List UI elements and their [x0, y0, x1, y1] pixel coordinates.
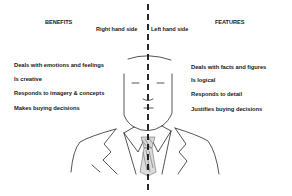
shoulder-right: [175, 128, 219, 174]
collar-right: [152, 131, 171, 152]
neck-right: [162, 126, 171, 131]
head-right-side: [162, 74, 172, 126]
businessman-figure: [0, 0, 292, 196]
head-outline: [128, 56, 171, 60]
benefit-item: Deals with emotions and feelings: [14, 62, 104, 69]
jacket-right-front: [162, 131, 171, 174]
benefit-item: Makes buying decisions: [14, 105, 80, 112]
lapel-left-inner: [92, 165, 100, 172]
lapel-right: [175, 128, 187, 174]
benefits-heading: BENEFITS: [45, 19, 72, 26]
feature-item: Deals with facts and figures: [191, 64, 266, 71]
right-hand-side-label: Right hand side: [96, 26, 137, 33]
neck-left: [124, 127, 134, 133]
left-hand-side-label: Left hand side: [151, 26, 188, 33]
jacket-left-front: [124, 133, 136, 174]
feature-item: Justifies buying decisions: [191, 106, 262, 113]
benefit-item: Responds to imagery & concepts: [14, 90, 104, 97]
feature-item: Is logical: [191, 77, 215, 84]
lapel-left: [103, 129, 117, 174]
benefit-item: Is creative: [14, 76, 42, 83]
head-left-side: [124, 74, 134, 127]
features-heading: FEATURES: [215, 19, 244, 26]
feature-item: Responds to detail: [191, 91, 242, 98]
brain-sides-diagram: BENEFITS Right hand side Deals with emot…: [0, 0, 292, 196]
